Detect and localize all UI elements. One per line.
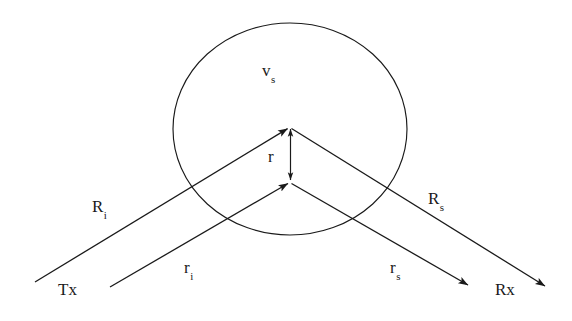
label-incident-range-base: R <box>92 197 103 216</box>
label-incident-range-sub: i <box>104 209 107 221</box>
label-scattered-ray: rs <box>390 259 400 279</box>
label-scattered-range-sub: s <box>440 201 444 213</box>
label-transmitter: Tx <box>58 281 77 298</box>
label-scattering-volume-sub: s <box>271 73 275 85</box>
label-scattering-volume: vs <box>262 62 275 82</box>
label-incident-ray-sub: i <box>190 270 193 282</box>
diagram-canvas <box>0 0 572 321</box>
label-receiver-base: Rx <box>495 280 515 299</box>
label-scattered-range: Rs <box>428 190 444 210</box>
label-scattered-ray-sub: s <box>396 270 400 282</box>
label-transmitter-base: Tx <box>58 280 77 299</box>
label-radius-base: r <box>268 147 274 166</box>
label-incident-ray: ri <box>184 259 193 279</box>
label-scattering-volume-base: v <box>262 61 271 80</box>
label-receiver: Rx <box>495 281 515 298</box>
label-scattered-range-base: R <box>428 189 439 208</box>
label-radius: r <box>268 148 274 165</box>
label-scattered-ray-base: r <box>390 258 396 277</box>
scattered-range-line <box>292 129 546 287</box>
scattering-geometry-diagram: vs r Ri Rs ri rs Tx Rx <box>0 0 572 321</box>
label-incident-ray-base: r <box>184 258 190 277</box>
incident-ray-line <box>110 184 288 288</box>
label-incident-range: Ri <box>92 198 106 218</box>
